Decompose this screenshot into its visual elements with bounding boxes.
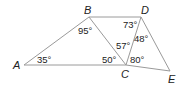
vertex-label-d: D — [141, 4, 149, 16]
vertex-label-c: C — [121, 68, 129, 80]
vertex-label-b: B — [84, 4, 91, 16]
geometry-diagram: ABCDE35°95°50°57°80°73°48° — [0, 0, 185, 91]
angle-label-a: 35° — [37, 54, 52, 65]
segment-ce — [126, 65, 170, 71]
angle-label-b: 95° — [78, 25, 93, 36]
angle-label-c: 80° — [130, 54, 145, 65]
angle-label-c: 57° — [116, 40, 131, 51]
segment-de — [141, 17, 170, 71]
diagram-svg: ABCDE35°95°50°57°80°73°48° — [0, 0, 185, 91]
vertex-label-e: E — [168, 73, 176, 85]
vertex-label-a: A — [12, 59, 20, 71]
angle-label-d: 73° — [123, 19, 138, 30]
angle-label-c: 50° — [102, 54, 117, 65]
angle-label-d: 48° — [134, 33, 149, 44]
